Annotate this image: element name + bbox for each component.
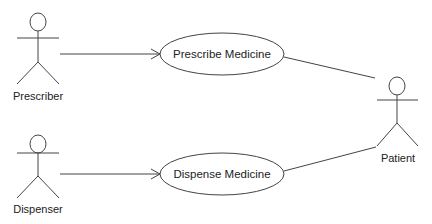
dispenser-label: Dispenser <box>13 203 63 216</box>
prescriber-label: Prescriber <box>13 90 63 103</box>
prescribe-medicine-label: Prescribe Medicine <box>173 47 271 61</box>
use-case-diagram: Prescriber Dispenser Patient Prescribe M… <box>0 0 432 224</box>
patient-actor-icon <box>377 77 418 146</box>
dispense-medicine-label: Dispense Medicine <box>173 167 270 181</box>
dispenser-association-arrow <box>60 169 160 179</box>
patient-label: Patient <box>381 152 415 165</box>
dispenser-actor-icon <box>17 135 59 198</box>
prescribe-patient-line <box>284 57 375 78</box>
prescriber-association-arrow <box>60 49 160 59</box>
diagram-graphics <box>0 0 432 224</box>
dispense-patient-line <box>284 147 376 171</box>
prescriber-actor-icon <box>17 13 59 84</box>
